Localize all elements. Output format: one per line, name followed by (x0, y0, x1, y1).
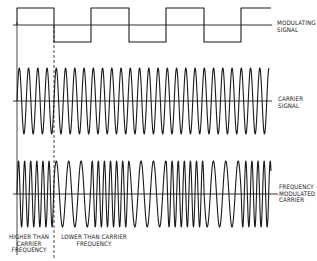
higher-label-line-3: FREQUENCY (12, 246, 47, 253)
modulating-label-line-2: SIGNAL (277, 26, 299, 33)
fm-diagram: MODULATING SIGNAL CARRIER SIGNAL FREQUEN… (0, 0, 317, 261)
fm-carrier: FREQUENCY MODULATED CARRIER (13, 161, 315, 227)
higher-frequency-annotation: HIGHER THAN CARRIER FREQUENCY (9, 233, 49, 253)
modulating-signal: MODULATING SIGNAL (13, 8, 316, 42)
fm-label-line-3: CARRIER (279, 196, 304, 203)
lower-frequency-annotation: LOWER THAN CARRIER FREQUENCY (61, 233, 127, 247)
carrier-label-line-2: SIGNAL (278, 102, 300, 109)
carrier-signal: CARRIER SIGNAL (13, 68, 303, 134)
lower-label-line-2: FREQUENCY (77, 240, 112, 247)
